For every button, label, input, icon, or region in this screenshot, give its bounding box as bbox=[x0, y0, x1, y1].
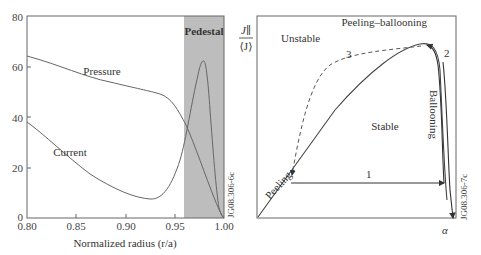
ballooning-label: Ballooning bbox=[428, 90, 440, 139]
left-ticks bbox=[27, 67, 175, 218]
xtick-0.95: 0.95 bbox=[165, 220, 185, 232]
left-figure-code: JG08.306-6c bbox=[226, 172, 236, 218]
path-2-label: 2 bbox=[444, 47, 450, 59]
pressure-label: Pressure bbox=[83, 65, 120, 77]
xtick-0.80: 0.80 bbox=[17, 220, 37, 232]
right-figure-code: JG08.306-7c bbox=[459, 174, 469, 220]
path-3-label: 3 bbox=[346, 48, 352, 60]
current-label: Current bbox=[53, 146, 87, 158]
right-ylabel-num: J∥ bbox=[241, 24, 251, 36]
xtick-0.90: 0.90 bbox=[116, 220, 136, 232]
right-ylabel-den: ⟨J⟩ bbox=[240, 40, 253, 52]
stable-label: Stable bbox=[371, 120, 399, 132]
xtick-1.00: 1.00 bbox=[214, 220, 234, 232]
left-xlabel: Normalized radius (r/a) bbox=[73, 237, 177, 250]
right-xlabel: α bbox=[442, 224, 448, 236]
ytick-60: 60 bbox=[12, 61, 24, 73]
unstable-label: Unstable bbox=[281, 32, 320, 44]
pedestal-region bbox=[184, 16, 224, 218]
pedestal-label: Pedestal bbox=[184, 25, 223, 37]
peeling-ballooning-label: Peeling–ballooning bbox=[341, 16, 427, 28]
ballooning-descent-arrow bbox=[443, 62, 453, 218]
peeling-label: Peeling bbox=[263, 168, 294, 201]
left-chart: 80 60 40 20 0 0.80 0.85 0.90 0.95 1.00 N… bbox=[12, 11, 236, 250]
path-3-arrow bbox=[292, 46, 421, 175]
ytick-80: 80 bbox=[12, 11, 24, 23]
xtick-0.85: 0.85 bbox=[66, 220, 86, 232]
stability-boundary bbox=[258, 44, 447, 217]
ytick-20: 20 bbox=[12, 162, 24, 174]
right-plot-frame bbox=[257, 16, 456, 218]
figure: 80 60 40 20 0 0.80 0.85 0.90 0.95 1.00 N… bbox=[0, 0, 481, 255]
ytick-40: 40 bbox=[12, 112, 24, 124]
path-1-label: 1 bbox=[366, 168, 372, 180]
right-chart: J∥ ⟨J⟩ α Peeling–ballooning Unstable Sta… bbox=[239, 16, 469, 236]
